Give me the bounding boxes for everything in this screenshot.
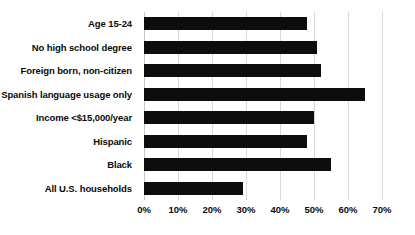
bar-row bbox=[144, 153, 382, 177]
category-row: Hispanic bbox=[0, 130, 138, 154]
category-row: Spanish language usage only bbox=[0, 83, 138, 107]
x-tick-label: 40% bbox=[270, 204, 289, 215]
bar-0 bbox=[144, 17, 307, 30]
category-row: Income <$15,000/year bbox=[0, 106, 138, 130]
bar-row bbox=[144, 177, 382, 201]
category-label: Age 15-24 bbox=[88, 18, 132, 29]
bar-row bbox=[144, 83, 382, 107]
bar-1 bbox=[144, 41, 317, 54]
bar-4 bbox=[144, 111, 314, 124]
bar-3 bbox=[144, 88, 365, 101]
category-axis: Age 15-24 No high school degree Foreign … bbox=[0, 12, 138, 200]
bar-chart-figure: Age 15-24 No high school degree Foreign … bbox=[0, 0, 415, 235]
x-axis: 0%10%20%30%40%50%60%70% bbox=[144, 202, 382, 224]
plot-area bbox=[144, 12, 382, 200]
category-row: No high school degree bbox=[0, 36, 138, 60]
bar-7 bbox=[144, 182, 243, 195]
bar-row bbox=[144, 36, 382, 60]
category-label: Income <$15,000/year bbox=[36, 112, 132, 123]
x-tick-label: 20% bbox=[202, 204, 221, 215]
bar-5 bbox=[144, 135, 307, 148]
category-row: Age 15-24 bbox=[0, 12, 138, 36]
x-tick-label: 60% bbox=[338, 204, 357, 215]
category-label: Foreign born, non-citizen bbox=[21, 65, 133, 76]
x-tick-label: 0% bbox=[137, 204, 151, 215]
bar-row bbox=[144, 12, 382, 36]
bar-row bbox=[144, 130, 382, 154]
gridline-70 bbox=[382, 12, 383, 200]
category-row: All U.S. households bbox=[0, 177, 138, 201]
category-row: Black bbox=[0, 153, 138, 177]
bar-6 bbox=[144, 158, 331, 171]
x-tick-label: 10% bbox=[168, 204, 187, 215]
bar-2 bbox=[144, 64, 321, 77]
bar-series bbox=[144, 12, 382, 200]
category-label: Spanish language usage only bbox=[1, 89, 132, 100]
x-tick-label: 70% bbox=[372, 204, 391, 215]
category-label: No high school degree bbox=[32, 42, 132, 53]
x-tick-label: 30% bbox=[236, 204, 255, 215]
category-label: Hispanic bbox=[93, 136, 132, 147]
bar-row bbox=[144, 59, 382, 83]
category-label: All U.S. households bbox=[45, 183, 132, 194]
category-row: Foreign born, non-citizen bbox=[0, 59, 138, 83]
category-label: Black bbox=[107, 159, 132, 170]
bar-row bbox=[144, 106, 382, 130]
x-tick-label: 50% bbox=[304, 204, 323, 215]
